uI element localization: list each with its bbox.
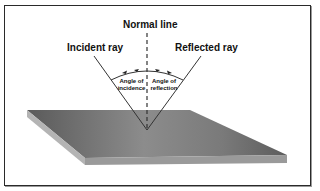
angle-of-incidence-label: Angle of incidence [117, 78, 146, 92]
angle-reflection-line1: Angle of [149, 78, 179, 85]
reflected-ray-label: Reflected ray [175, 42, 238, 53]
plate-top-face [27, 110, 287, 158]
reflective-surface [27, 110, 287, 165]
angle-incidence-line2: incidence [117, 85, 146, 92]
angle-incidence-line1: Angle of [117, 78, 146, 85]
angle-of-reflection-label: Angle of reflection [149, 78, 179, 92]
angle-reflection-line2: reflection [149, 85, 179, 92]
normal-line-label: Normal line [123, 19, 177, 30]
incident-ray-label: Incident ray [67, 42, 123, 53]
